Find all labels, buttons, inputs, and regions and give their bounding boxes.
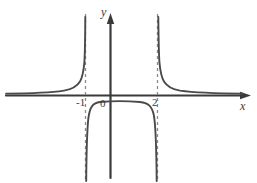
curve-left-branch (6, 17, 85, 94)
x-tick-label-neg1: -1 (76, 97, 85, 108)
origin-label: 0 (100, 98, 106, 109)
y-axis-label: y (101, 6, 106, 18)
rational-function-graph: y x -1 0 2 (0, 0, 257, 183)
curve-right-branch (158, 17, 243, 94)
x-tick-label-2: 2 (152, 97, 158, 108)
plot-canvas (0, 0, 257, 183)
x-axis-label: x (240, 100, 245, 112)
curve-middle-branch (86, 101, 157, 181)
